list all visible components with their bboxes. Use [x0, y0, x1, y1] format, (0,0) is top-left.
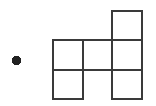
square-top-right	[112, 11, 142, 41]
polyomino-figure	[0, 0, 156, 106]
square-middle-left	[53, 40, 83, 70]
dot-marker	[12, 56, 21, 65]
square-bottom-right	[112, 70, 142, 100]
square-bottom-left	[53, 70, 83, 100]
square-middle-center	[83, 40, 113, 70]
figure-container	[0, 0, 156, 106]
square-middle-right	[112, 40, 142, 70]
